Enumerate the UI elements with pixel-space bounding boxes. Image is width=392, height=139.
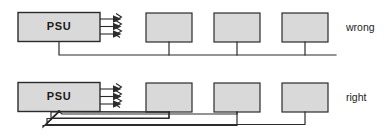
load-box-right-1 — [146, 83, 192, 112]
psu-label-right: PSU — [47, 90, 71, 102]
psu-output-arrows-right — [100, 84, 122, 108]
psu-output-arrows-wrong — [100, 14, 122, 38]
verdict-label-wrong: wrong — [345, 21, 375, 33]
star-point-node — [57, 110, 60, 113]
load-box-wrong-3 — [282, 13, 328, 42]
right-row-group: PSU right — [18, 83, 367, 128]
load-box-right-3 — [282, 83, 328, 112]
verdict-label-right: right — [346, 91, 367, 103]
load-box-wrong-2 — [214, 13, 260, 42]
star-point-returns-right-overlay — [46, 112, 305, 125]
load-box-right-2 — [214, 83, 260, 112]
diagram-canvas: PSU wrong — [0, 0, 392, 139]
wrong-row-group: PSU wrong — [18, 13, 375, 56]
psu-label-wrong: PSU — [47, 20, 71, 32]
wiring-diagram: PSU wrong — [0, 0, 392, 139]
return-bus-wrong — [59, 42, 336, 56]
load-box-wrong-1 — [146, 13, 192, 42]
